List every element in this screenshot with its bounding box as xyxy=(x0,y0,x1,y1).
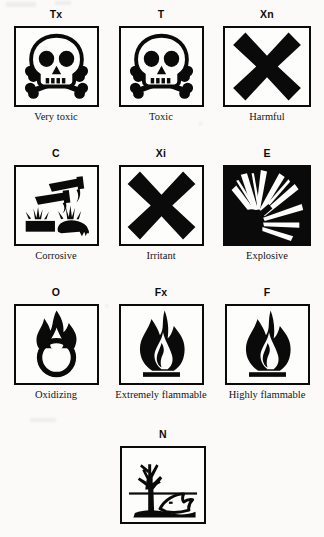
symbol-cell-harmful: Xn Harmful xyxy=(222,8,312,123)
symbol-caption-corrosive: Corrosive xyxy=(12,249,100,262)
scan-artifact xyxy=(55,1,71,5)
scan-artifact xyxy=(6,2,36,7)
symbol-code-f: F xyxy=(220,286,314,298)
symbol-cell-explosive: E xyxy=(222,147,312,262)
dead-tree-and-fish-icon xyxy=(122,448,204,522)
symbol-caption-highly-flammable: Highly flammable xyxy=(220,388,314,401)
symbol-box-highly-flammable xyxy=(225,304,310,385)
symbol-box-toxic xyxy=(119,26,204,107)
symbol-caption-harmful: Harmful xyxy=(222,110,312,123)
corrosion-test-tubes-icon xyxy=(16,167,97,244)
symbol-code-e: E xyxy=(222,147,312,159)
symbol-box-irritant xyxy=(119,165,204,246)
skull-and-crossbones-icon xyxy=(16,28,97,105)
symbol-code-t: T xyxy=(117,8,205,20)
symbol-cell-corrosive: C xyxy=(12,147,100,262)
symbol-box-corrosive xyxy=(14,165,99,246)
exploding-bomb-icon xyxy=(225,167,309,244)
flame-icon xyxy=(121,306,202,383)
symbol-caption-extremely-flammable: Extremely flammable xyxy=(115,388,207,401)
symbol-box-extremely-flammable xyxy=(119,304,204,385)
symbol-cell-toxic: T xyxy=(117,8,205,123)
symbol-cell-highly-flammable: F Highly flammable xyxy=(220,286,314,401)
saltire-cross-icon xyxy=(225,28,309,105)
flame-over-circle-icon xyxy=(16,306,97,383)
symbol-code-o: O xyxy=(12,286,100,298)
symbol-box-harmful xyxy=(223,26,311,107)
symbol-caption-oxidizing: Oxidizing xyxy=(12,388,100,401)
symbol-caption-explosive: Explosive xyxy=(222,249,312,262)
symbol-caption-irritant: Irritant xyxy=(117,249,205,262)
symbol-caption-very-toxic: Very toxic xyxy=(12,110,100,123)
symbol-cell-dangerous-for-environment: N xyxy=(118,428,208,527)
symbol-cell-extremely-flammable: Fx Extremely flammable xyxy=(115,286,207,401)
symbol-code-xi: Xi xyxy=(117,147,205,159)
symbol-cell-irritant: Xi Irritant xyxy=(117,147,205,262)
symbol-code-fx: Fx xyxy=(115,286,207,298)
scan-artifact xyxy=(30,418,56,422)
symbol-code-c: C xyxy=(12,147,100,159)
symbol-code-tx: Tx xyxy=(12,8,100,20)
symbol-box-explosive xyxy=(223,165,311,246)
symbol-cell-very-toxic: Tx xyxy=(12,8,100,123)
symbol-code-n: N xyxy=(118,428,208,440)
skull-and-crossbones-icon xyxy=(121,28,202,105)
symbol-box-dangerous-for-environment xyxy=(120,446,206,524)
symbol-cell-oxidizing: O Oxidizing xyxy=(12,286,100,401)
symbol-code-xn: Xn xyxy=(222,8,312,20)
hazard-symbol-chart: Tx xyxy=(0,0,324,537)
saltire-cross-icon xyxy=(121,167,202,244)
flame-icon xyxy=(227,306,308,383)
symbol-box-oxidizing xyxy=(14,304,99,385)
symbol-caption-toxic: Toxic xyxy=(117,110,205,123)
symbol-box-very-toxic xyxy=(14,26,99,107)
